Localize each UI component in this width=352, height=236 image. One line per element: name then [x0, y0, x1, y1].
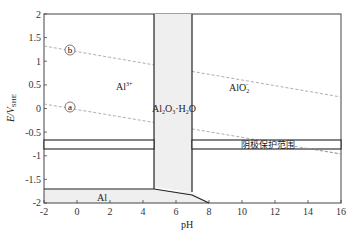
pourbaix-diagram: 2 1.5 1 0.5 0 -0.5 -1 -1.5 -2 -2 0 2 4 6… — [0, 0, 352, 236]
marker-a: a — [65, 102, 75, 112]
y-tick-label: 0.5 — [29, 79, 42, 90]
x-tick-label: 10 — [237, 206, 247, 217]
x-tick-label: 14 — [303, 206, 313, 217]
y-tick-label: -1.5 — [25, 174, 41, 185]
y-axis-label: E/VSHE — [5, 94, 18, 123]
al3-label: Al3+ — [116, 81, 133, 92]
x-tick-label: -2 — [40, 206, 48, 217]
marker-b: b — [65, 45, 75, 55]
cathodic-protection-label: 阴极保护范围 — [241, 139, 295, 150]
x-tick-label: 6 — [174, 206, 179, 217]
x-tick-label: 16 — [336, 206, 346, 217]
x-tick-label: 0 — [75, 206, 80, 217]
x-tick-label: 4 — [141, 206, 146, 217]
y-tick-label: 1 — [36, 56, 41, 67]
y-tick-label: -0.5 — [25, 127, 41, 138]
alo2-label: AlO2− — [229, 81, 249, 94]
y-tick-label: 1.5 — [29, 32, 42, 43]
protection-band-left — [44, 140, 154, 149]
y-tick-label: -1 — [33, 150, 41, 161]
al-label: Al — [97, 192, 107, 203]
svg-text:b: b — [68, 45, 73, 55]
svg-text:a: a — [68, 102, 72, 112]
x-tick-label: 8 — [207, 206, 212, 217]
x-axis-label: pH — [181, 219, 193, 230]
x-tick-label: 2 — [108, 206, 113, 217]
al-region — [44, 189, 209, 203]
x-tick-label: 12 — [270, 206, 280, 217]
y-tick-label: 2 — [36, 9, 41, 20]
y-tick-label: 0 — [36, 103, 41, 114]
